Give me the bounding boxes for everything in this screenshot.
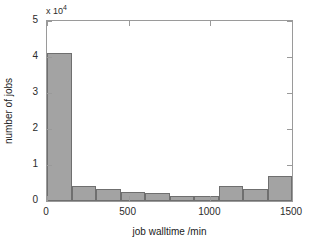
x-axis-tick-top xyxy=(47,21,48,26)
y-axis-multiplier-base: x 10 xyxy=(46,6,63,16)
y-axis-tick xyxy=(47,165,52,166)
y-axis-tick-right xyxy=(287,57,292,58)
y-axis-tick xyxy=(47,93,52,94)
x-axis-tick-label: 500 xyxy=(106,207,150,217)
bar xyxy=(170,196,195,201)
y-axis-tick-right xyxy=(287,201,292,202)
y-axis-tick xyxy=(47,129,52,130)
x-axis-tick xyxy=(292,196,293,201)
bar xyxy=(96,189,121,201)
figure-canvas: x 104 012345 050010001500 job walltime /… xyxy=(0,0,317,251)
x-axis-tick-top xyxy=(292,21,293,26)
x-axis-tick-label: 1500 xyxy=(269,207,313,217)
bar xyxy=(72,186,97,201)
y-axis-tick xyxy=(47,201,52,202)
x-axis-tick-labels: 050010001500 xyxy=(46,205,293,219)
y-axis-multiplier: x 104 xyxy=(46,6,67,16)
x-axis-tick xyxy=(129,196,130,201)
bar xyxy=(243,189,268,201)
bar xyxy=(145,193,170,201)
y-axis-title-wrap: number of jobs xyxy=(2,20,16,202)
x-axis-tick-top xyxy=(210,21,211,26)
bar xyxy=(121,192,146,201)
x-axis-tick-label: 0 xyxy=(24,207,68,217)
y-axis-tick-right xyxy=(287,93,292,94)
y-axis-tick xyxy=(47,57,52,58)
plot-area xyxy=(46,20,293,202)
y-axis-tick-right xyxy=(287,129,292,130)
bar xyxy=(194,196,219,201)
x-axis-tick-label: 1000 xyxy=(187,207,231,217)
x-axis-tick xyxy=(210,196,211,201)
y-axis-multiplier-exponent: 4 xyxy=(63,4,67,11)
x-axis-title: job walltime /min xyxy=(46,226,293,238)
y-axis-title: number of jobs xyxy=(3,78,15,144)
x-axis-tick xyxy=(47,196,48,201)
bar xyxy=(47,53,72,201)
bar xyxy=(219,186,244,201)
x-axis-tick-top xyxy=(129,21,130,26)
bar xyxy=(268,176,293,201)
y-axis-tick-right xyxy=(287,165,292,166)
